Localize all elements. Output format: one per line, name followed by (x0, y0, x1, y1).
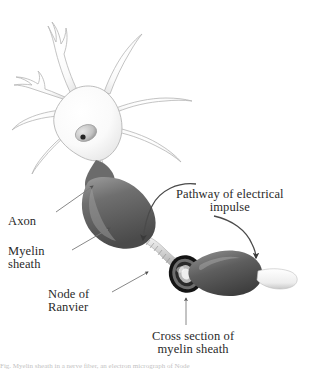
label-pathway-of-electrical-impulse: Pathway of electrical impulse (176, 188, 284, 214)
label-cross-section-of-myelin-sheath: Cross section of myelin sheath (152, 330, 234, 356)
label-axon: Axon (8, 215, 36, 228)
figure-caption: Fig. Myelin sheath in a nerve fiber, an … (0, 362, 311, 370)
dendrite-upper-left (48, 22, 80, 96)
cell-body-soma (54, 86, 122, 161)
dendrite-top-right (104, 34, 142, 94)
label-node-of-ranvier: Node of Ranvier (48, 288, 89, 314)
nucleolus (80, 134, 85, 139)
neuron-illustration (0, 0, 311, 372)
leader-node (112, 272, 148, 292)
dendrite-top-left (14, 71, 70, 100)
node-of-ranvier-2 (257, 269, 297, 289)
dendrite-right-lower (117, 128, 181, 162)
dendrite-right-upper (116, 98, 192, 112)
neuron-diagram-figure: Axon Myelin sheath Node of Ranvier Pathw… (0, 0, 311, 372)
label-myelin-sheath: Myelin sheath (8, 245, 45, 271)
